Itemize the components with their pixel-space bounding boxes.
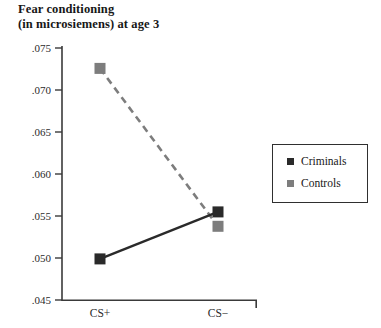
legend-item-criminals: Criminals (287, 155, 346, 167)
y-tick-label-045: .045 (32, 294, 52, 306)
legend-swatch-controls-icon (287, 180, 294, 187)
chart-legend: Criminals Controls (272, 144, 368, 203)
y-tick-label-070: .070 (32, 84, 52, 96)
legend-label-controls: Controls (301, 177, 341, 189)
legend-label-criminals: Criminals (301, 155, 346, 167)
data-point-controls-cs-minus (213, 221, 224, 232)
legend-item-controls: Controls (287, 177, 341, 189)
y-tick-label-065: .065 (32, 126, 52, 138)
y-tick-label-075: .075 (32, 42, 52, 54)
y-tick-label-060: .060 (32, 168, 52, 180)
x-tick-label-cs-plus: CS+ (90, 307, 111, 319)
data-point-criminals-cs-minus (213, 206, 224, 217)
x-tick-label-cs-minus: CS− (208, 307, 229, 319)
fear-conditioning-chart: Fear conditioning (in microsiemens) at a… (0, 0, 381, 328)
series-line-criminals (100, 212, 218, 259)
data-point-controls-cs-plus (95, 63, 106, 74)
series-line-controls (100, 68, 218, 226)
y-tick-label-055: .055 (32, 210, 52, 222)
y-tick-label-050: .050 (32, 252, 52, 264)
data-point-criminals-cs-plus (95, 253, 106, 264)
legend-swatch-criminals-icon (287, 158, 294, 165)
